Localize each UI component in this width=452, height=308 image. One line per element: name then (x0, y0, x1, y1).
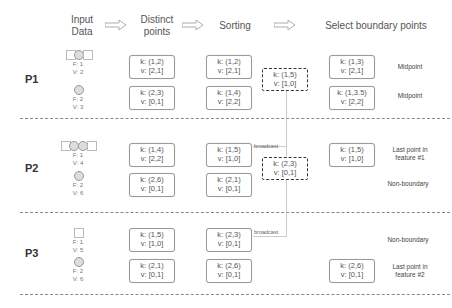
key-text: k: (2,6) (207, 261, 251, 270)
key-text: k: (1,5) (263, 70, 307, 79)
circle-icon (74, 171, 84, 181)
key-text: k: (1,5) (207, 145, 251, 154)
value-text: v: [0,1] (130, 270, 174, 279)
value-text: v: [1,0] (263, 79, 307, 88)
key-text: k: (2,3) (207, 230, 251, 239)
input-data-item: F: 2 V: 6 (68, 268, 88, 283)
kv-box-sorted: k: (1,5) v: [1,0] (206, 143, 252, 167)
feature-label: F: 2 (68, 268, 88, 276)
feature-label: F: 2 (68, 182, 88, 190)
circle-icon (74, 85, 84, 95)
kv-box-sorted: k: (1,2) v: [2,1] (206, 55, 252, 79)
note-line: feature #1 (380, 154, 440, 162)
kv-box-sorted: k: (1,4) v: [2,2] (206, 86, 252, 110)
value-text: v: [0,1] (130, 97, 174, 106)
kv-box-sorted: k: (2,6) v: [0,1] (206, 259, 252, 283)
broadcast-box: k: (2,3) v: [0,1] (262, 157, 308, 180)
value-label: V: 6 (68, 276, 88, 284)
header-distinct-points: Distinct points (132, 14, 182, 38)
header-input-data: Input Data (62, 14, 102, 38)
kv-box-boundary: k: (2,6) v: [0,1] (329, 259, 375, 283)
broadcast-box: k: (1,5) v: [1,0] (262, 68, 308, 91)
arrow-icon (182, 20, 204, 30)
partition-separator (20, 212, 450, 213)
value-label: V: 5 (68, 247, 88, 255)
key-text: k: (2,1) (207, 175, 251, 184)
key-text: k: (1,2) (207, 57, 251, 66)
broadcast-label: broadcast (254, 143, 278, 149)
value-text: v: [0,1] (207, 270, 251, 279)
non-boundary-note: Non-boundary (378, 236, 438, 244)
header-input-line1: Input (62, 14, 102, 26)
value-text: v: [0,1] (330, 270, 374, 279)
header-distinct-line1: Distinct (132, 14, 182, 26)
partition-label-p1: P1 (25, 73, 38, 85)
kv-box-distinct: k: (1,2) v: [2,1] (129, 55, 175, 79)
header-input-line2: Data (62, 26, 102, 38)
note-line: feature #2 (380, 271, 440, 279)
key-text: k: (2,6) (130, 175, 174, 184)
input-data-item: F: 1 V: 4 (68, 152, 88, 167)
kv-box-boundary: k: (1,3.5) v: [2,2] (329, 86, 375, 110)
partition-separator (20, 118, 450, 119)
key-text: k: (2,6) (330, 261, 374, 270)
input-data-item: F: 1 V: 5 (68, 239, 88, 254)
key-text: k: (1,4) (207, 88, 251, 97)
boundary-note: Midpoint (380, 63, 440, 71)
value-text: v: [1,0] (330, 154, 374, 163)
partition-label-p3: P3 (25, 247, 38, 259)
header-distinct-line2: points (132, 26, 182, 38)
boundary-note: Midpoint (380, 92, 440, 100)
kv-box-distinct: k: (2,6) v: [0,1] (129, 173, 175, 197)
feature-label: F: 2 (68, 96, 88, 104)
kv-box-distinct: k: (2,1) v: [0,1] (129, 259, 175, 283)
kv-box-distinct: k: (1,4) v: [2,2] (129, 143, 175, 167)
key-text: k: (1,3) (330, 57, 374, 66)
value-text: v: [0,1] (207, 184, 251, 193)
non-boundary-note: Non-boundary (378, 180, 438, 188)
kv-box-sorted: k: (2,1) v: [0,1] (206, 173, 252, 197)
key-text: k: (1,5) (130, 230, 174, 239)
kv-box-distinct: k: (2,3) v: [0,1] (129, 86, 175, 110)
value-text: v: [2,2] (330, 97, 374, 106)
input-data-item: F: 1 V: 2 (68, 61, 88, 76)
value-label: V: 6 (68, 190, 88, 198)
partition-label-p2: P2 (25, 162, 38, 174)
feature-label: F: 1 (68, 61, 88, 69)
value-text: v: [2,2] (207, 97, 251, 106)
value-text: v: [0,1] (207, 239, 251, 248)
partition-separator (20, 294, 450, 295)
value-text: v: [2,1] (130, 66, 174, 75)
kv-box-boundary: k: (1,3) v: [2,1] (329, 55, 375, 79)
value-text: v: [0,1] (263, 168, 307, 177)
value-text: v: [2,1] (330, 66, 374, 75)
value-text: v: [1,0] (130, 239, 174, 248)
key-text: k: (1,3.5) (330, 88, 374, 97)
kv-box-boundary: k: (1,5) v: [1,0] (329, 143, 375, 167)
value-text: v: [2,1] (207, 66, 251, 75)
value-text: v: [1,0] (207, 154, 251, 163)
key-text: k: (1,4) (130, 145, 174, 154)
note-line: Last point in (380, 263, 440, 271)
value-label: V: 3 (68, 104, 88, 112)
feature-label: F: 1 (68, 239, 88, 247)
input-data-item: F: 2 V: 6 (68, 182, 88, 197)
kv-box-sorted: k: (2,3) v: [0,1] (206, 228, 252, 252)
broadcast-label: broadcast (254, 229, 278, 235)
kv-box-distinct: k: (1,5) v: [1,0] (129, 228, 175, 252)
boundary-note: Last point in feature #2 (380, 263, 440, 279)
value-label: V: 2 (68, 69, 88, 77)
value-text: v: [2,2] (130, 154, 174, 163)
key-text: k: (2,3) (263, 159, 307, 168)
arrow-icon (274, 20, 296, 30)
key-text: k: (1,2) (130, 57, 174, 66)
note-line: Last point in (380, 146, 440, 154)
header-sorting: Sorting (210, 20, 260, 32)
key-text: k: (1,5) (330, 145, 374, 154)
key-text: k: (2,3) (130, 88, 174, 97)
circle-icon (74, 257, 84, 267)
feature-label: F: 1 (68, 152, 88, 160)
value-text: v: [0,1] (130, 184, 174, 193)
boundary-note: Last point in feature #1 (380, 146, 440, 162)
header-select-boundary: Select boundary points (316, 20, 436, 32)
